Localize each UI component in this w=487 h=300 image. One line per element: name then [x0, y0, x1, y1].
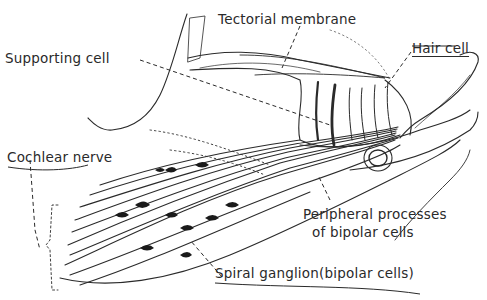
tectorial-membrane — [240, 55, 385, 78]
label-spiral-ganglion-main: Spiral ganglion — [215, 265, 319, 281]
cochlea-diagram: Tectorial membrane Hair cell Supporting … — [0, 0, 487, 300]
cochlear-nerve-underline — [8, 165, 88, 170]
label-hair-cell: Hair cell — [412, 41, 469, 56]
label-tectorial-membrane: Tectorial membrane — [218, 12, 356, 27]
bony-wall-outline — [88, 14, 187, 130]
label-cochlear-nerve: Cochlear nerve — [7, 150, 112, 165]
label-peripheral-processes-line2: of bipolar cells — [312, 225, 414, 240]
label-peripheral-processes-line1: Peripheral processes — [303, 207, 447, 222]
label-spiral-ganglion: Spiral ganglion(bipolar cells) — [215, 266, 414, 281]
label-spiral-ganglion-paren: (bipolar cells) — [319, 265, 414, 281]
label-supporting-cell: Supporting cell — [5, 51, 110, 66]
